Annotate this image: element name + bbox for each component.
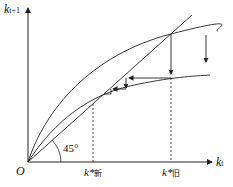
y-axis-label: kt+1 [4,2,20,17]
origin-label: O [16,164,25,179]
45-degree-line [28,15,192,162]
k-old-label: k*旧 [162,166,180,178]
new-accumulation-curve [28,75,210,162]
angle-label: 45° [63,142,78,154]
diagram-canvas [0,0,233,187]
k-new-label: k*新 [84,166,102,178]
angle-arc [52,140,61,162]
x-axis-label: kt [216,155,224,170]
old-accumulation-curve [28,24,222,162]
